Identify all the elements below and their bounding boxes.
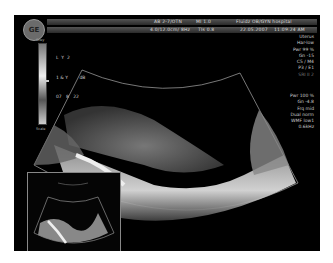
inset-scan-image	[28, 173, 120, 251]
ultrasound-screen: GE AB 2-7/OTN MI 1.0 Fluidz OB/GYN hospi…	[14, 15, 320, 251]
inset-thumbnail	[27, 172, 121, 251]
